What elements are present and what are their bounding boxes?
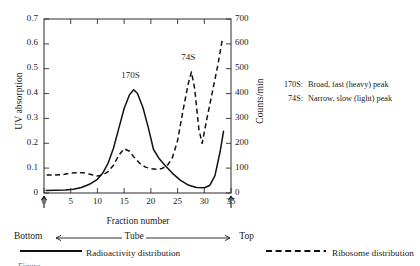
x-tick-25: 25 (166, 197, 190, 206)
x-tick-20: 20 (139, 197, 163, 206)
tube-label-middle-text: Tube (122, 231, 145, 241)
legend-label-radioactivity: Radioactivity distribution (86, 248, 180, 258)
note-key-170s: 170S: (276, 78, 303, 92)
chart-legend: Radioactivity distribution Ribosome dist… (18, 247, 410, 261)
figure-caption-cropped: Figure (18, 262, 318, 266)
note-key-74s: 74S: (276, 92, 303, 106)
x-tick-10: 10 (85, 197, 109, 206)
x-axis-ticks: 05101520253035 (0, 0, 420, 266)
legend-item-ribosome: Ribosome distribution (264, 247, 414, 258)
peak-label-74s: 74S (168, 52, 208, 62)
tube-label-top: Top (239, 231, 254, 241)
x-tick-15: 15 (112, 197, 136, 206)
peak-notes: 170S:Broad, fast (heavy) peak 74S:Narrow… (276, 78, 392, 106)
legend-swatch-ribosome (264, 249, 326, 256)
x-axis-title: Fraction number (44, 216, 232, 226)
x-tick-0: 0 (32, 197, 56, 206)
x-tick-5: 5 (59, 197, 83, 206)
x-tick-35: 35 (219, 197, 243, 206)
note-row-74s: 74S:Narrow, slow (light) peak (276, 92, 392, 106)
note-text-74s: Narrow, slow (light) peak (308, 94, 392, 103)
legend-item-radioactivity: Radioactivity distribution (18, 247, 180, 258)
x-tick-30: 30 (192, 197, 216, 206)
legend-label-ribosome: Ribosome distribution (332, 248, 414, 258)
legend-swatch-radioactivity (18, 249, 80, 256)
peak-label-170s: 170S (111, 70, 151, 80)
tube-direction-row: Bottom Tube Top (14, 231, 254, 245)
sedimentation-profile-figure: 00.10.20.30.40.50.60.7 UV absorption 010… (0, 0, 420, 266)
tube-label-middle: Tube (14, 231, 254, 241)
note-row-170s: 170S:Broad, fast (heavy) peak (276, 78, 392, 92)
note-text-170s: Broad, fast (heavy) peak (308, 80, 388, 89)
